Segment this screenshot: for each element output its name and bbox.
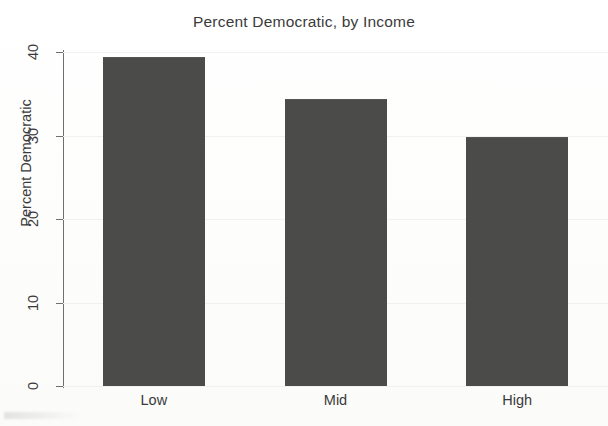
gridline-0 xyxy=(63,386,608,387)
y-tick-label-20: 20 xyxy=(18,211,48,227)
scan-artifact xyxy=(4,412,82,419)
y-tick-label-text: 0 xyxy=(25,382,41,390)
x-tick-label-high: High xyxy=(457,392,577,408)
y-tick-label-10: 10 xyxy=(18,295,48,311)
y-tick-label-text: 40 xyxy=(25,44,41,60)
plot-area xyxy=(63,52,608,386)
y-tick-label-40: 40 xyxy=(18,44,48,60)
x-tick-label-mid: Mid xyxy=(276,392,396,408)
x-tick-label-low: Low xyxy=(94,392,214,408)
y-tick-label-text: 30 xyxy=(25,127,41,143)
bar-low xyxy=(103,57,205,386)
y-tick-label-text: 10 xyxy=(25,294,41,310)
y-tick-label-text: 20 xyxy=(25,211,41,227)
chart-title: Percent Democratic, by Income xyxy=(0,13,608,31)
bar-high xyxy=(466,137,568,386)
y-tick-label-0: 0 xyxy=(18,378,48,394)
bar-mid xyxy=(285,99,387,386)
gridline-40 xyxy=(63,52,608,53)
chart-figure: Percent Democratic, by Income Percent De… xyxy=(0,0,608,426)
y-tick-label-30: 30 xyxy=(18,128,48,144)
